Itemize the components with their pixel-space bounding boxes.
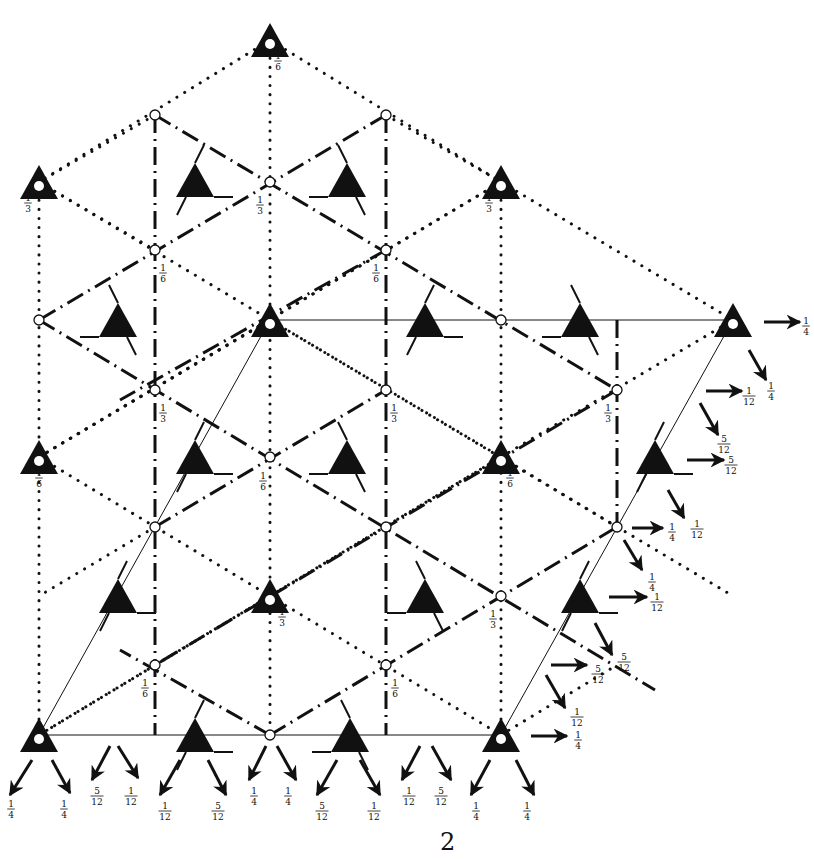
svg-text:12: 12 — [618, 663, 629, 673]
svg-text:6: 6 — [373, 274, 379, 284]
svg-text:12: 12 — [592, 675, 603, 685]
svg-text:3: 3 — [279, 618, 285, 628]
fraction-label: 512 — [212, 801, 225, 822]
arrow-icon — [249, 746, 266, 780]
fraction-label: 16 — [274, 51, 282, 72]
fraction-label: 13 — [489, 609, 497, 630]
inversion-centre-icon — [34, 315, 44, 325]
svg-text:1: 1 — [746, 386, 752, 396]
svg-text:1: 1 — [694, 519, 700, 529]
svg-text:1: 1 — [803, 316, 809, 326]
svg-text:12: 12 — [651, 603, 662, 613]
svg-text:5: 5 — [319, 801, 325, 811]
space-group-diagram: 1613131616131316161313131613161614145121… — [0, 0, 814, 859]
fraction-label: 112 — [651, 592, 664, 613]
svg-text:1: 1 — [490, 609, 496, 619]
svg-text:5: 5 — [438, 786, 444, 796]
svg-text:12: 12 — [691, 530, 702, 540]
svg-text:12: 12 — [725, 466, 736, 476]
fraction-label: 512 — [91, 786, 104, 807]
fraction-label: 14 — [523, 801, 531, 822]
screw-axis-icon — [636, 422, 693, 492]
fraction-label: 112 — [125, 786, 138, 807]
svg-text:6: 6 — [260, 482, 266, 492]
svg-text:3: 3 — [160, 414, 166, 424]
svg-text:4: 4 — [61, 810, 67, 820]
svg-text:1: 1 — [25, 193, 31, 203]
svg-text:3: 3 — [25, 204, 31, 214]
arrow-icon — [516, 760, 534, 795]
arrow-icon — [749, 350, 766, 380]
arrow-icon — [118, 746, 138, 778]
dotted-diagonal — [501, 457, 617, 527]
svg-text:1: 1 — [669, 522, 675, 532]
svg-text:4: 4 — [524, 812, 530, 822]
svg-text:1: 1 — [507, 468, 513, 478]
svg-text:3: 3 — [605, 414, 611, 424]
svg-text:12: 12 — [316, 812, 327, 822]
svg-text:1: 1 — [392, 678, 398, 688]
fraction-labels: 1613131616131316161313131613161614145121… — [7, 51, 810, 822]
inversion-centre-icon — [381, 522, 391, 532]
fraction-label: 13 — [159, 403, 167, 424]
dotted-diagonal — [39, 527, 155, 596]
inversion-centre-icon — [150, 660, 160, 670]
svg-text:12: 12 — [212, 812, 223, 822]
inversion-centre-icon — [381, 660, 391, 670]
svg-text:1: 1 — [371, 801, 377, 811]
inversion-centre-icon — [265, 177, 275, 187]
dotted-diagonal — [386, 115, 501, 182]
fraction-label: 16 — [159, 263, 167, 284]
svg-text:5: 5 — [728, 455, 734, 465]
svg-text:5: 5 — [94, 786, 100, 796]
arrow-icon — [360, 760, 380, 795]
svg-text:4: 4 — [473, 812, 479, 822]
fraction-label: 13 — [390, 403, 398, 424]
svg-text:1: 1 — [128, 786, 134, 796]
svg-text:1: 1 — [260, 471, 266, 481]
arrow-icon — [668, 490, 684, 518]
page-number: 2 — [440, 828, 455, 856]
arrow-icon — [700, 403, 718, 435]
fraction-label: 14 — [250, 786, 258, 807]
fraction-label: 13 — [256, 195, 264, 216]
fraction-label: 512 — [725, 455, 738, 476]
inversion-centre-icon — [612, 522, 622, 532]
fraction-label: 14 — [668, 522, 676, 543]
inversion-centre-icon — [265, 452, 275, 462]
fraction-label: 16 — [506, 468, 514, 489]
arrow-icon — [432, 746, 451, 780]
svg-text:3: 3 — [486, 204, 492, 214]
svg-text:1: 1 — [654, 592, 660, 602]
fraction-label: 14 — [574, 730, 582, 751]
arrow-icon — [471, 760, 490, 795]
svg-text:1: 1 — [160, 263, 166, 273]
svg-text:1: 1 — [575, 730, 581, 740]
svg-text:6: 6 — [275, 62, 281, 72]
arrow-icon — [52, 760, 70, 793]
svg-text:1: 1 — [649, 572, 655, 582]
fraction-label: 112 — [571, 707, 584, 728]
svg-text:3: 3 — [257, 206, 263, 216]
arrow-icon — [208, 760, 226, 795]
inversion-centre-icon — [381, 385, 391, 395]
svg-text:1: 1 — [160, 403, 166, 413]
fraction-label: 112 — [743, 386, 756, 407]
svg-text:12: 12 — [125, 797, 136, 807]
arrow-icon — [402, 746, 420, 780]
svg-text:3: 3 — [391, 414, 397, 424]
fraction-label: 16 — [141, 678, 149, 699]
svg-text:1: 1 — [8, 799, 14, 809]
svg-text:12: 12 — [435, 797, 446, 807]
svg-text:1: 1 — [574, 707, 580, 717]
threefold-axis-icon — [482, 440, 520, 474]
svg-text:1: 1 — [285, 786, 291, 796]
svg-text:6: 6 — [392, 689, 398, 699]
fraction-label: 512 — [718, 434, 731, 455]
svg-text:6: 6 — [142, 689, 148, 699]
inversion-centre-icon — [150, 245, 160, 255]
fraction-label: 16 — [372, 263, 380, 284]
arrow-icon — [10, 760, 32, 795]
svg-text:1: 1 — [36, 468, 42, 478]
svg-text:5: 5 — [721, 434, 727, 444]
